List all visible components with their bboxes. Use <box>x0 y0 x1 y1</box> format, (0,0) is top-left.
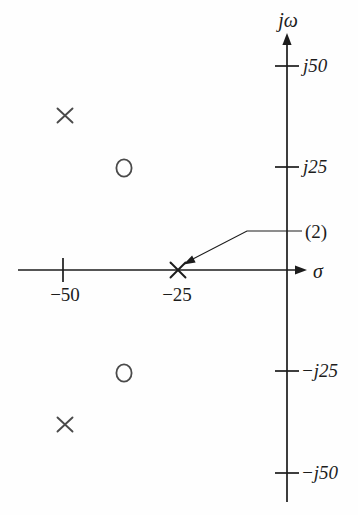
tick-label-minus-j25: −j25 <box>301 361 338 380</box>
zero-lower-left <box>116 364 131 381</box>
tick-label-j50: j50 <box>303 56 327 75</box>
tick-label-minus-25: −25 <box>162 285 192 304</box>
pole-lower-left <box>58 418 73 432</box>
pole-upper-left <box>58 109 73 123</box>
zero-upper-left <box>116 159 131 176</box>
real-axis <box>18 265 307 274</box>
real-axis-label: σ <box>313 261 323 281</box>
multiplicity-leader-line <box>184 231 303 265</box>
tick-label-j25: j25 <box>303 157 327 176</box>
plot-canvas <box>0 0 358 515</box>
pole-zero-figure: jω σ j50 j25 −j25 −j50 −50 −25 (2) <box>0 0 358 515</box>
tick-label-minus-50: −50 <box>50 285 80 304</box>
tick-label-minus-j50: −j50 <box>301 463 338 482</box>
imaginary-axis <box>282 33 291 502</box>
imaginary-axis-label: jω <box>278 10 298 30</box>
multiplicity-label: (2) <box>305 222 327 241</box>
